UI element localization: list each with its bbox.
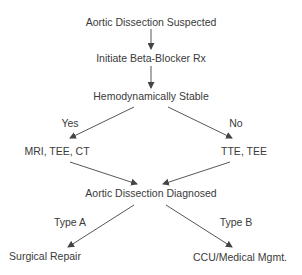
arrow-tte-to-diagnosed <box>163 162 230 184</box>
node-aortic-dissection-diagnosed: Aortic Dissection Diagnosed <box>85 187 216 199</box>
edge-label-type-b: Type B <box>220 216 253 228</box>
flowchart-canvas: Aortic Dissection Suspected Initiate Bet… <box>0 0 302 275</box>
arrow-stable-to-tte <box>168 107 232 138</box>
node-mri-tee-ct: MRI, TEE, CT <box>24 145 89 157</box>
node-ccu-medical-mgmt: CCU/Medical Mgmt. <box>193 251 287 263</box>
edge-label-type-a: Type A <box>54 216 86 228</box>
node-tte-tee: TTE, TEE <box>221 145 267 157</box>
edge-label-yes: Yes <box>61 117 78 129</box>
node-initiate-beta-blocker: Initiate Beta-Blocker Rx <box>96 52 206 64</box>
node-hemodynamically-stable: Hemodynamically Stable <box>93 90 209 102</box>
node-aortic-dissection-suspected: Aortic Dissection Suspected <box>86 16 217 28</box>
edges-layer <box>0 0 302 275</box>
node-surgical-repair: Surgical Repair <box>9 250 81 262</box>
edge-label-no: No <box>229 117 242 129</box>
arrow-stable-to-mri <box>70 107 134 138</box>
arrow-mri-to-diagnosed <box>70 162 137 184</box>
